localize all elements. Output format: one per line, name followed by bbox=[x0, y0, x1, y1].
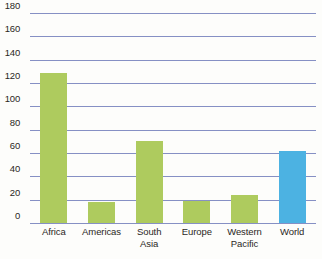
bar-americas[interactable] bbox=[88, 202, 115, 223]
y-axis-tick-label: 160 bbox=[0, 24, 20, 34]
x-axis-label-line: Pacific bbox=[221, 238, 269, 250]
x-axis-labels: AfricaAmericasSouthAsiaEuropeWesternPaci… bbox=[30, 226, 316, 258]
x-axis-label-africa: Africa bbox=[30, 226, 78, 238]
x-axis-label-line: World bbox=[268, 226, 316, 238]
y-axis-tick-label: 180 bbox=[0, 1, 20, 11]
y-axis-tick-label: 60 bbox=[0, 141, 20, 151]
y-axis-tick-label: 80 bbox=[0, 118, 20, 128]
x-axis-label-south-asia: SouthAsia bbox=[125, 226, 173, 249]
x-axis-label-western-pacific: WesternPacific bbox=[221, 226, 269, 249]
y-axis-tick-label: 140 bbox=[0, 48, 20, 58]
x-axis-label-line: South bbox=[125, 226, 173, 238]
y-axis-tick-label: 20 bbox=[0, 188, 20, 198]
x-axis-label-line: Western bbox=[221, 226, 269, 238]
bar-western-pacific[interactable] bbox=[231, 195, 258, 223]
x-axis-label-americas: Americas bbox=[78, 226, 126, 238]
y-axis-tick-label: 120 bbox=[0, 71, 20, 81]
x-axis-label-line: Europe bbox=[173, 226, 221, 238]
y-axis-tick-label: 40 bbox=[0, 164, 20, 174]
x-axis-label-line: Africa bbox=[30, 226, 78, 238]
x-axis-label-line: Asia bbox=[125, 238, 173, 250]
bar-south-asia[interactable] bbox=[136, 141, 163, 223]
bar-world[interactable] bbox=[279, 151, 306, 223]
bars-layer bbox=[30, 13, 316, 223]
x-axis-label-line: Americas bbox=[78, 226, 126, 238]
bar-africa[interactable] bbox=[40, 73, 67, 224]
bar-europe[interactable] bbox=[183, 201, 210, 223]
x-axis-label-world: World bbox=[268, 226, 316, 238]
y-axis-tick-label: 100 bbox=[0, 94, 20, 104]
bar-chart: 020406080100120140160180 AfricaAmericasS… bbox=[0, 0, 322, 259]
x-axis-baseline bbox=[30, 223, 316, 224]
x-axis-label-europe: Europe bbox=[173, 226, 221, 238]
y-axis-tick-label: 0 bbox=[0, 211, 20, 221]
